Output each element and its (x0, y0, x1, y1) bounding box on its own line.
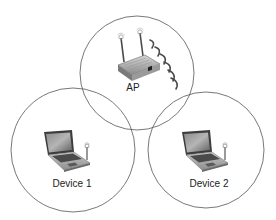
network-diagram (0, 0, 276, 220)
device2-label: Device 2 (190, 178, 229, 190)
device1-label: Device 1 (53, 178, 92, 190)
wireless-router-icon (118, 28, 161, 81)
laptop-icon (182, 130, 228, 172)
laptop-icon (44, 130, 90, 172)
ap-label: AP (126, 82, 139, 94)
